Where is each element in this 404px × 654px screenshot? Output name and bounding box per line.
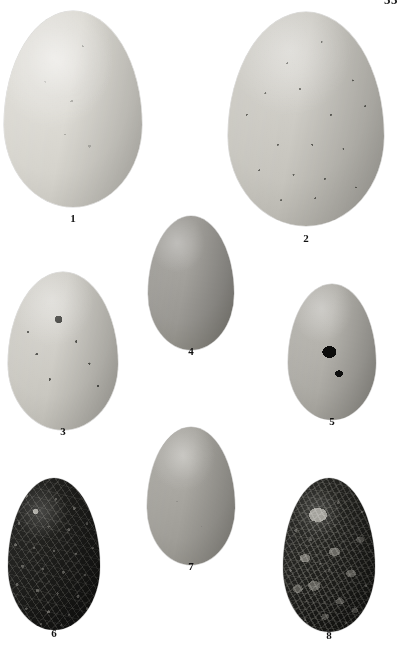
egg-caption-2: 2 (228, 233, 384, 244)
egg-markings-5 (288, 284, 376, 420)
page-number: 55 (384, 0, 398, 6)
egg-markings-6 (8, 478, 100, 630)
egg-caption-1: 1 (4, 213, 142, 224)
egg-specimen-4 (148, 216, 234, 350)
egg-markings-1 (4, 11, 142, 207)
egg-caption-4: 4 (148, 346, 234, 357)
egg-specimen-1 (4, 11, 142, 207)
egg-figure-6: 6 (8, 478, 100, 630)
egg-figure-2: 2 (228, 12, 384, 226)
egg-figure-8: 8 (283, 478, 375, 632)
egg-markings-4 (148, 216, 234, 350)
egg-markings-8 (283, 478, 375, 632)
egg-specimen-5 (288, 284, 376, 420)
egg-markings-2 (228, 12, 384, 226)
egg-figure-7: 7 (147, 427, 235, 565)
egg-caption-7: 7 (147, 561, 235, 572)
egg-specimen-7 (147, 427, 235, 565)
egg-specimen-8 (283, 478, 375, 632)
egg-markings-3 (8, 272, 118, 430)
egg-caption-6: 6 (8, 628, 100, 639)
egg-figure-4: 4 (148, 216, 234, 350)
egg-specimen-2 (228, 12, 384, 226)
egg-caption-5: 5 (288, 416, 376, 427)
egg-markings-7 (147, 427, 235, 565)
egg-specimen-3 (8, 272, 118, 430)
egg-plate: 55 1 2 3 4 (0, 0, 404, 654)
egg-figure-1: 1 (4, 11, 142, 207)
egg-specimen-6 (8, 478, 100, 630)
egg-figure-5: 5 (288, 284, 376, 420)
egg-caption-8: 8 (283, 630, 375, 641)
egg-figure-3: 3 (8, 272, 118, 430)
egg-caption-3: 3 (8, 426, 118, 437)
